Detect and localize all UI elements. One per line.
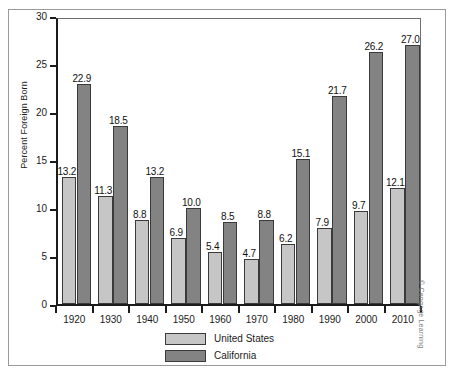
bar-2000-united-states [354, 211, 369, 304]
x-tick-mark-1960 [201, 306, 203, 313]
bar-1960-california [223, 222, 238, 304]
y-axis-label: Percent Foreign Born [19, 45, 29, 205]
x-tick-label-1950: 1950 [173, 314, 195, 325]
bar-2010-united-states [390, 188, 405, 304]
x-tick-mark-1950 [165, 306, 167, 313]
bar-1980-california [296, 159, 311, 304]
bar-label-1970-california: 8.8 [258, 209, 271, 220]
bar-1990-california [332, 96, 347, 304]
x-tick-mark-1930 [92, 306, 94, 313]
bar-label-1990-california: 21.7 [328, 85, 347, 96]
y-tick-20: 20 [0, 114, 56, 115]
bar-label-1940-california: 13.2 [145, 166, 164, 177]
bar-1950-united-states [171, 238, 186, 304]
y-tick-label: 5 [41, 251, 47, 262]
bar-1980-united-states [281, 244, 296, 304]
bar-label-2000-california: 26.2 [364, 41, 383, 52]
x-tick-mark-1980 [274, 306, 276, 313]
legend-label-united-states: United States [214, 333, 274, 344]
copyright-credit: © Cengage Learning [418, 280, 425, 348]
y-tick-label: 10 [36, 203, 47, 214]
legend-item-california: California [165, 347, 274, 364]
bar-label-2010-california: 27.0 [401, 34, 420, 45]
legend-label-california: California [214, 350, 256, 361]
bar-label-1930-california: 18.5 [109, 115, 128, 126]
bar-label-1980-united-states: 6.2 [279, 233, 292, 244]
bar-2000-california [369, 52, 384, 304]
x-tick-mark-1940 [128, 306, 130, 313]
bar-1920-united-states [62, 177, 77, 304]
x-tick-label-1980: 1980 [282, 314, 304, 325]
bar-label-1950-california: 10.0 [182, 197, 201, 208]
x-tick-mark-1920 [55, 306, 57, 313]
bar-1970-california [259, 220, 274, 304]
plot-area [56, 18, 421, 306]
bar-label-1990-united-states: 7.9 [316, 217, 329, 228]
plot-wrapper: Percent Foreign Born 051015202530 13.222… [0, 0, 455, 378]
bar-1930-california [113, 126, 128, 304]
y-tick-10: 10 [0, 210, 56, 211]
x-tick-label-1970: 1970 [246, 314, 268, 325]
bar-label-1930-united-states: 11.3 [94, 185, 112, 196]
x-tick-label-1990: 1990 [319, 314, 341, 325]
bar-label-1980-california: 15.1 [291, 148, 310, 159]
y-tick-label: 0 [41, 299, 47, 310]
y-tick-5: 5 [0, 258, 56, 259]
x-tick-label-1960: 1960 [209, 314, 231, 325]
y-tick-label: 15 [36, 155, 47, 166]
bar-label-1960-california: 8.5 [221, 211, 234, 222]
bar-label-1940-united-states: 8.8 [133, 209, 146, 220]
bar-1950-california [186, 208, 201, 304]
bar-label-1950-united-states: 6.9 [170, 227, 183, 238]
bar-2010-california [405, 45, 420, 304]
bar-label-1920-california: 22.9 [72, 73, 91, 84]
x-tick-mark-1970 [238, 306, 240, 313]
bar-1930-united-states [98, 196, 113, 304]
y-tick-30: 30 [0, 18, 56, 19]
bar-1990-united-states [317, 228, 332, 304]
bar-label-2000-united-states: 9.7 [352, 200, 365, 211]
bar-1940-united-states [135, 220, 150, 304]
y-tick-label: 30 [36, 11, 47, 22]
bar-label-1960-united-states: 5.4 [206, 241, 219, 252]
bar-label-1920-united-states: 13.2 [57, 166, 76, 177]
bar-label-2010-united-states: 12.1 [386, 177, 405, 188]
bar-1960-united-states [208, 252, 223, 304]
y-tick-0: 0 [0, 306, 56, 307]
x-tick-label-1920: 1920 [63, 314, 85, 325]
bar-1970-united-states [244, 259, 259, 304]
chart-legend: United States California [165, 330, 274, 364]
x-tick-label-1940: 1940 [136, 314, 158, 325]
bar-1920-california [77, 84, 92, 304]
legend-swatch-california [165, 350, 206, 362]
x-tick-mark-2000 [347, 306, 349, 313]
legend-swatch-united-states [165, 333, 206, 345]
x-tick-mark-2010 [384, 306, 386, 313]
y-tick-label: 20 [36, 107, 47, 118]
x-tick-label-2000: 2000 [355, 314, 377, 325]
x-tick-mark-1990 [311, 306, 313, 313]
x-tick-label-1930: 1930 [100, 314, 122, 325]
y-tick-label: 25 [36, 59, 47, 70]
y-tick-25: 25 [0, 66, 56, 67]
bar-label-1970-united-states: 4.7 [243, 248, 256, 259]
bar-1940-california [150, 177, 165, 304]
y-tick-15: 15 [0, 162, 56, 163]
x-tick-label-2010: 2010 [392, 314, 414, 325]
figure-container: Percent Foreign Born 051015202530 13.222… [0, 0, 455, 378]
legend-item-united-states: United States [165, 330, 274, 347]
